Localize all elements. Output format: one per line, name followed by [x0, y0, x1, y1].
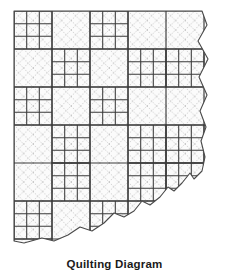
figure-caption-text: Quilting Diagram [67, 258, 163, 270]
quilting-diagram-figure: Quilting Diagram [0, 0, 229, 275]
figure-caption: Quilting Diagram [0, 252, 229, 275]
quilt-body [0, 0, 229, 252]
quilt-svg [0, 0, 229, 252]
quilt-illustration [0, 0, 229, 252]
